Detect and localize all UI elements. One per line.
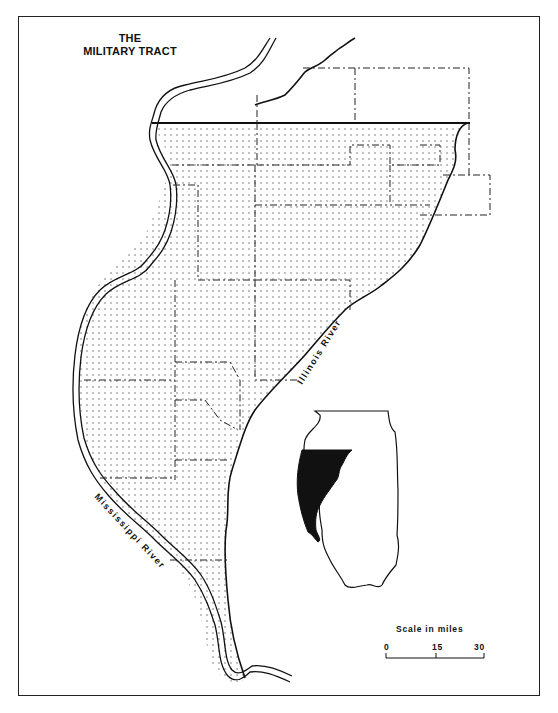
scale-bar: Scale in miles 0 15 30 <box>384 624 485 658</box>
illinois-inset-map <box>297 411 398 587</box>
scale-tick-0: 0 <box>384 642 390 652</box>
scale-tick-15: 15 <box>432 642 443 652</box>
tract-region <box>77 123 468 683</box>
military-tract-map: Illinois River Mississippi River Scale i… <box>0 0 558 713</box>
scale-title: Scale in miles <box>396 624 463 634</box>
scale-tick-30: 30 <box>474 642 485 652</box>
